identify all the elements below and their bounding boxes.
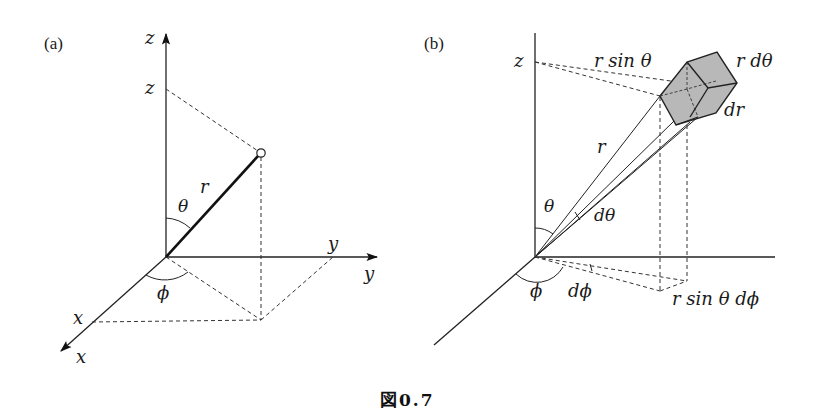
phi-label: ϕ [530, 280, 542, 301]
panel-b: (b) [424, 33, 775, 345]
z-tick-label: z [144, 77, 155, 98]
phi-label: ϕ [157, 282, 169, 303]
spherical-coordinates-figure: (a) z z r θ y y ϕ x x (b) [0, 0, 814, 419]
panel-a: (a) z z r θ y y ϕ x x [44, 27, 377, 367]
theta-arc [535, 228, 553, 234]
x-axis-label: x [76, 346, 86, 367]
y-projection-line [261, 257, 333, 320]
z-projection-line [166, 89, 258, 151]
radius-label: r [200, 176, 210, 197]
x-axis [61, 257, 166, 351]
figure-caption: 図 0.7 [380, 390, 435, 410]
r-sin-theta-dphi-label: r sin θ dϕ [672, 288, 759, 309]
x-projection-line [92, 320, 261, 322]
phi-arc [146, 272, 188, 280]
r-dtheta-label: r dθ [736, 50, 773, 71]
theta-arc [166, 218, 190, 228]
theta-label: θ [544, 196, 554, 216]
z-tick-label: z [513, 50, 524, 71]
z-axis-label: z [144, 27, 155, 48]
caption-prefix: 図 [380, 390, 397, 410]
dphi-label: dϕ [568, 280, 592, 301]
x-axis [434, 257, 535, 345]
theta-label: θ [178, 196, 188, 216]
dr-label: dr [724, 99, 746, 120]
r-sin-theta-label: r sin θ [594, 50, 652, 71]
point-marker [257, 149, 265, 157]
x-tick-label: x [73, 307, 83, 328]
radius-label: r [597, 136, 607, 157]
caption-number: 0.7 [399, 390, 435, 410]
radius-line-upper [535, 96, 660, 257]
dphi-tick [590, 264, 592, 271]
panel-b-label: (b) [424, 34, 444, 53]
y-tick-label: y [327, 233, 339, 254]
dtheta-label: dθ [594, 205, 615, 225]
radius-line-inner [535, 122, 690, 257]
panel-a-label: (a) [44, 34, 63, 53]
xy-plane-projection-line [166, 257, 261, 320]
y-axis-label: y [363, 263, 375, 284]
